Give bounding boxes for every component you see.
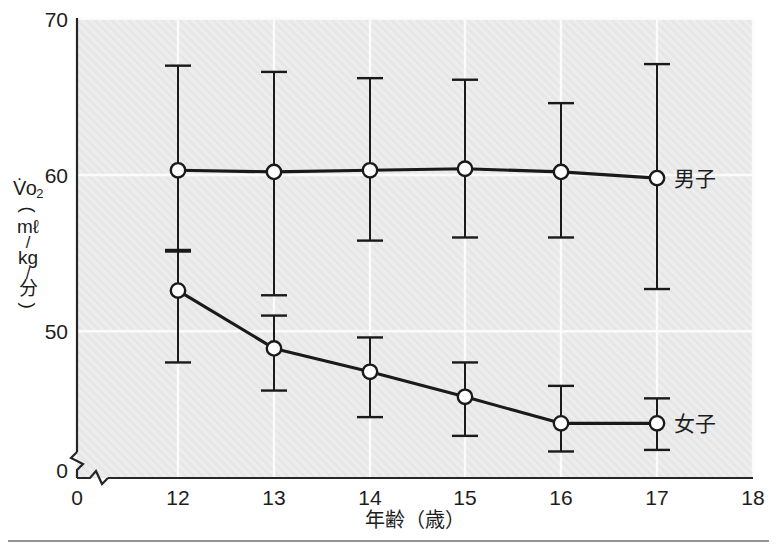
data-point-marker	[363, 163, 377, 177]
y-axis-paren-close: )	[18, 284, 37, 328]
y-tick-label: 50	[45, 320, 68, 343]
y-origin-label: 0	[56, 459, 68, 482]
data-point-marker	[650, 416, 664, 430]
x-tick-label: 13	[262, 486, 285, 509]
data-point-marker	[267, 165, 281, 179]
x-tick-label: 16	[549, 486, 572, 509]
series-label-1: 男子	[674, 167, 716, 190]
figure-root: 5060700 012131415161718 男子女子 年齢（歳） V̇o2 …	[0, 0, 777, 556]
x-axis-title: 年齢（歳）	[365, 509, 465, 531]
x-tick-label: 0	[71, 486, 83, 509]
y-axis-title: V̇o2 ( mℓ / kg / 分 )	[6, 178, 50, 316]
x-tick-label: 15	[453, 486, 476, 509]
data-point-marker	[267, 341, 281, 355]
x-tick-label: 12	[166, 486, 189, 509]
y-tick-label: 70	[45, 8, 68, 31]
data-point-marker	[363, 365, 377, 379]
data-point-marker	[554, 416, 568, 430]
data-point-marker	[458, 162, 472, 176]
chart-canvas: 5060700 012131415161718 男子女子 年齢（歳）	[0, 0, 777, 556]
data-point-marker	[171, 163, 185, 177]
x-tick-label: 17	[645, 486, 668, 509]
series-label-2: 女子	[674, 412, 716, 435]
data-point-marker	[650, 171, 664, 185]
y-axis-paren-open: (	[18, 188, 37, 232]
x-tick-label: 14	[358, 486, 382, 509]
data-point-marker	[554, 165, 568, 179]
x-tick-labels: 012131415161718	[71, 486, 765, 509]
data-point-marker	[458, 390, 472, 404]
data-point-marker	[171, 283, 185, 297]
x-tick-label: 18	[741, 486, 764, 509]
